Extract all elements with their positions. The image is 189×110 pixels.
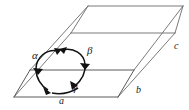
arrow-head-alpha-bottom [43, 87, 51, 95]
label-angle-gamma: γ [73, 83, 77, 93]
edge-back-left [71, 6, 88, 33]
cell-depth-edges [14, 6, 183, 97]
edge-depth-right-upper [134, 6, 183, 70]
label-edge-b: b [136, 85, 141, 95]
cell-back-face [71, 6, 183, 33]
label-angle-alpha: α [32, 50, 38, 61]
edge-depth-right [118, 33, 175, 97]
arrow-head-beta-mid [80, 63, 90, 70]
edge-back-right [175, 6, 183, 33]
edge-front-left [14, 70, 30, 97]
label-edge-a: a [59, 96, 64, 106]
label-edge-c: c [174, 41, 178, 51]
edge-front-right [118, 70, 134, 97]
edge-depth-left [14, 33, 71, 97]
unit-cell-figure: α β γ a b c [0, 0, 189, 110]
unit-cell-svg [0, 0, 189, 110]
label-angle-beta: β [87, 45, 92, 56]
